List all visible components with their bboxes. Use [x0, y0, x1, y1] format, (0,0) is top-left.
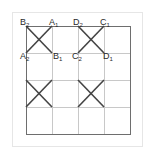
vertex-label-a1: A1	[49, 17, 59, 28]
vertex-label-c1: C1	[100, 17, 111, 28]
cross-mark	[26, 26, 52, 53]
vertex-label-b2: B2	[20, 17, 30, 28]
vertex-label-d1: D1	[103, 51, 114, 62]
cross-mark	[78, 80, 104, 107]
vertex-label-a2: A2	[20, 51, 30, 62]
crosses	[26, 26, 104, 107]
vertex-label-d2: D2	[73, 17, 84, 28]
vertex-label-b1: B1	[53, 51, 63, 62]
cross-mark	[78, 26, 104, 53]
grid-cross-diagram: B2A1A2B1D2C1C2D1	[0, 0, 149, 160]
vertex-label-c2: C2	[72, 51, 83, 62]
vertex-labels: B2A1A2B1D2C1C2D1	[20, 17, 114, 62]
cross-mark	[26, 80, 52, 107]
